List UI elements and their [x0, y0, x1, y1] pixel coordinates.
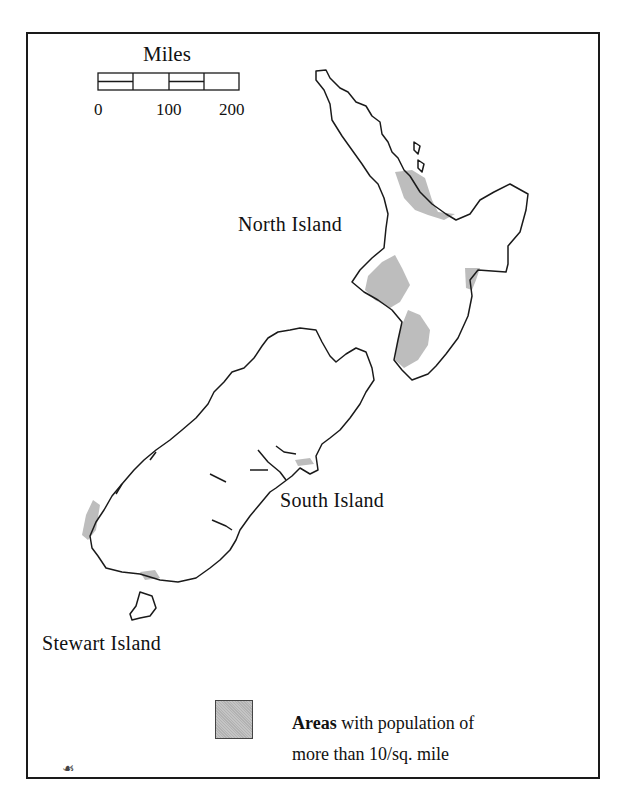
label-south-island: South Island: [280, 489, 384, 512]
legend-line1-bold: Areas: [292, 713, 337, 733]
scale-tick-200: 200: [219, 100, 245, 120]
coastlines: [90, 70, 528, 620]
legend-swatch-populated: [215, 700, 253, 739]
legend-line2: more than 10/sq. mile: [292, 739, 474, 770]
label-stewart-island: Stewart Island: [42, 632, 161, 655]
legend-line1-rest: with population of: [337, 713, 475, 733]
corner-mark-icon: ☙: [62, 760, 75, 777]
stewart-island-outline: [130, 592, 156, 620]
scale-bar-graphic: [98, 73, 239, 90]
scale-tick-0: 0: [94, 100, 103, 120]
new-zealand-map: [0, 0, 625, 808]
scale-bar-title: Miles: [143, 42, 191, 67]
legend-label: Areas with population of more than 10/sq…: [292, 708, 474, 770]
scale-tick-100: 100: [156, 100, 182, 120]
label-north-island: North Island: [238, 213, 342, 236]
south-island-outline: [90, 328, 374, 582]
